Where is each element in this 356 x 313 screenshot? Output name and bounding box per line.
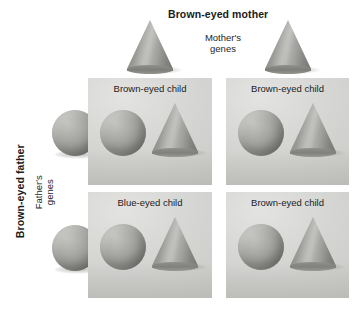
mother-title: Brown-eyed mother	[168, 8, 268, 20]
offspring-cell-bottom-left: Blue-eyed child	[88, 192, 212, 298]
offspring-cell-top-left: Brown-eyed child	[88, 78, 212, 185]
offspring-cone	[152, 217, 198, 270]
offspring-cone	[152, 103, 198, 156]
offspring-sphere	[100, 224, 146, 270]
cone-base	[152, 262, 198, 271]
cone-base	[265, 65, 311, 74]
offspring-cone	[290, 103, 336, 156]
offspring-label: Brown-eyed child	[226, 83, 349, 94]
offspring-label: Blue-eyed child	[88, 197, 212, 208]
offspring-label: Brown-eyed child	[226, 197, 349, 208]
sphere-body	[100, 224, 146, 270]
offspring-label: Brown-eyed child	[88, 83, 212, 94]
offspring-sphere	[238, 110, 284, 156]
cone-base	[152, 148, 198, 157]
mothers-genes-label: Mother's genes	[195, 32, 251, 54]
sphere-body	[238, 110, 284, 156]
cone-base	[127, 65, 173, 74]
punnett-square-figure: Brown-eyed mother Mother's genes Brown-e…	[0, 0, 356, 313]
offspring-sphere	[100, 110, 146, 156]
cone-base	[290, 148, 336, 157]
mother-gene-cone-1	[127, 20, 173, 73]
cone-base	[290, 262, 336, 271]
fathers-genes-label: Father's genes	[33, 147, 55, 237]
offspring-cell-top-right: Brown-eyed child	[226, 78, 349, 185]
father-title: Brown-eyed father	[14, 139, 26, 243]
offspring-cone	[290, 217, 336, 270]
sphere-body	[238, 224, 284, 270]
sphere-body	[100, 110, 146, 156]
offspring-sphere	[238, 224, 284, 270]
offspring-cell-bottom-right: Brown-eyed child	[226, 192, 349, 298]
mother-gene-cone-2	[265, 20, 311, 73]
